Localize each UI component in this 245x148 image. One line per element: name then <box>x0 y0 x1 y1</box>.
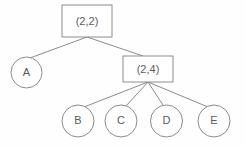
node-a[interactable]: A <box>11 57 42 88</box>
edge-inner-to-c <box>126 82 148 106</box>
edge-inner-to-b <box>84 82 148 107</box>
node-b-label: B <box>74 114 81 126</box>
edge-root-to-a <box>30 37 87 58</box>
node-c-label: C <box>117 114 125 126</box>
node-c[interactable]: C <box>105 105 137 137</box>
node-d-label: D <box>163 114 171 126</box>
node-d[interactable]: D <box>151 105 183 137</box>
node-b[interactable]: B <box>62 105 94 137</box>
node-root-label: (2,2) <box>76 15 99 27</box>
node-inner[interactable]: (2,4) <box>123 56 173 82</box>
node-a-label: A <box>23 66 31 78</box>
edge-group <box>30 37 208 107</box>
edge-inner-to-e <box>148 82 208 107</box>
node-e-label: E <box>210 114 217 126</box>
tree-diagram: (2,2) A (2,4) B C D E <box>0 0 245 148</box>
node-root[interactable]: (2,2) <box>62 5 112 37</box>
node-e[interactable]: E <box>198 105 230 137</box>
tree-diagram-canvas: (2,2) A (2,4) B C D E <box>0 0 245 148</box>
edge-root-to-inner <box>87 37 143 56</box>
node-inner-label: (2,4) <box>137 63 160 75</box>
